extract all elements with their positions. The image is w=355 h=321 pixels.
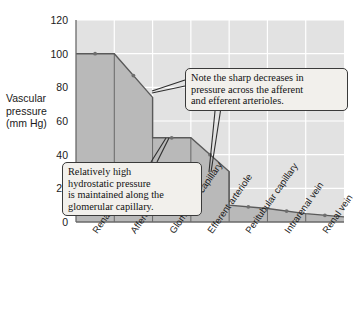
marker-glomerular-capillary <box>170 136 174 140</box>
marker-peritubular-capillary <box>246 205 250 209</box>
callout-arterioles: Note the sharp decreases in pressure acr… <box>185 68 348 111</box>
y-tick-label-60: 60 <box>38 115 68 127</box>
y-tick-label-100: 100 <box>38 48 68 60</box>
y-tick-label-120: 120 <box>38 14 68 26</box>
y-tick-label-40: 40 <box>38 149 68 161</box>
marker-intrarenal-vein <box>285 209 289 213</box>
marker-renal-artery <box>93 52 97 56</box>
callout-glomerular: Relatively high hydrostatic pressure is … <box>62 162 202 216</box>
y-tick-label-80: 80 <box>38 81 68 93</box>
marker-afferent-arteriole <box>132 74 136 78</box>
marker-renal-vein <box>323 213 327 217</box>
y-tick-label-0: 0 <box>38 216 68 228</box>
